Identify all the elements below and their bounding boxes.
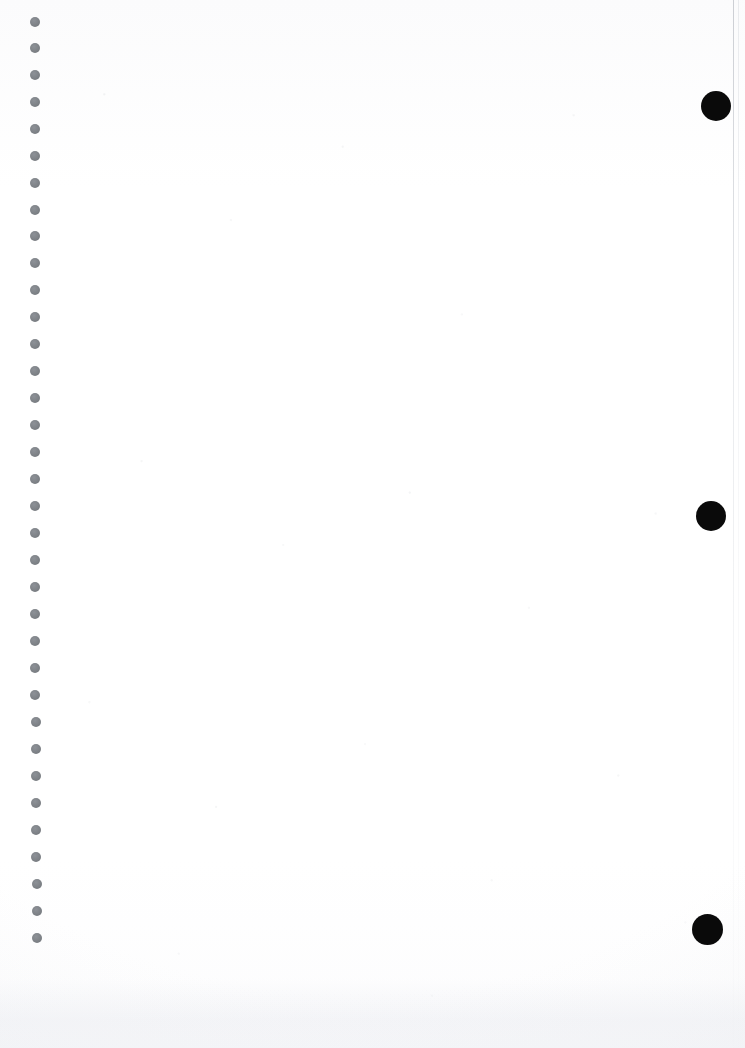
binder-punch-hole: [30, 97, 40, 107]
binder-punch-hole: [31, 744, 41, 754]
binder-punch-hole: [30, 178, 40, 188]
binder-punch-hole: [30, 339, 40, 349]
binder-punch-hole: [31, 717, 41, 727]
binder-punch-hole: [30, 555, 40, 565]
binder-punch-hole: [31, 825, 41, 835]
binder-punch-hole: [30, 70, 40, 80]
binder-punch-hole: [30, 312, 40, 322]
binder-punch-hole: [31, 852, 41, 862]
binder-punch-hole: [30, 582, 40, 592]
binder-punch-hole: [30, 43, 40, 53]
ink-dot-middle: [696, 501, 726, 531]
binder-punch-hole: [31, 798, 41, 808]
paper-sheet: [0, 0, 745, 1048]
binder-punch-hole: [30, 124, 40, 134]
binder-punch-hole: [30, 663, 40, 673]
binder-punch-hole: [30, 447, 40, 457]
binder-punch-hole: [30, 366, 40, 376]
binder-punch-hole: [30, 501, 40, 511]
binder-punch-hole: [30, 258, 40, 268]
ink-dot-bottom: [692, 914, 723, 945]
binder-punch-hole: [32, 879, 42, 889]
binder-punch-hole: [30, 420, 40, 430]
binder-punch-hole: [30, 151, 40, 161]
binder-punch-hole: [30, 690, 40, 700]
binder-punch-hole: [30, 609, 40, 619]
binder-punch-hole: [30, 393, 40, 403]
scanned-page: Blank scanned notebook page Blank page —…: [0, 0, 745, 1048]
binder-punch-hole: [32, 933, 42, 943]
binder-punch-hole: [30, 636, 40, 646]
binder-punch-hole: [30, 474, 40, 484]
binder-punch-hole: [30, 285, 40, 295]
binder-punch-hole: [31, 771, 41, 781]
binder-punch-hole: [30, 231, 40, 241]
binder-punch-hole: [32, 906, 42, 916]
binder-punch-hole: [30, 17, 40, 27]
ink-dot-top: [701, 91, 731, 121]
binder-punch-hole: [30, 205, 40, 215]
binder-punch-hole: [30, 528, 40, 538]
